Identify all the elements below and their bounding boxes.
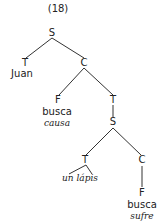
node-t-subject: T xyxy=(22,58,28,68)
leaf-sufre: sufre xyxy=(130,211,153,221)
node-s-root: S xyxy=(49,28,55,38)
node-s-embedded: S xyxy=(110,117,116,127)
node-f-embedded: F xyxy=(139,188,145,198)
leaf-busca-embedded: busca xyxy=(127,200,157,210)
leaf-causa: causa xyxy=(44,118,70,128)
node-t-object: T xyxy=(110,95,116,105)
node-t-embedded: T xyxy=(82,155,88,165)
node-f: F xyxy=(55,95,61,105)
leaf-un-lapis: un lápis xyxy=(62,173,98,183)
leaf-busca: busca xyxy=(42,107,72,117)
example-number: (18) xyxy=(48,4,69,14)
leaf-juan: Juan xyxy=(11,69,33,79)
node-c: C xyxy=(81,58,88,68)
node-c-embedded: C xyxy=(139,155,146,165)
